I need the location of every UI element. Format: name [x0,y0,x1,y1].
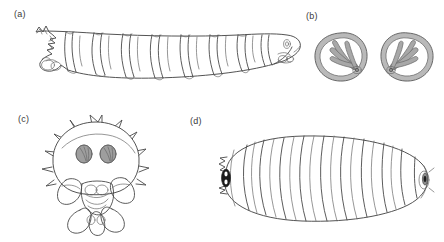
spiracular-plate-right [381,33,433,81]
figure-container: (a) [0,0,444,242]
spiracular-plate-left [315,33,367,81]
panel-label-b: (b) [306,11,318,21]
panel-d-puparium-dorsal-view [196,128,440,232]
panel-label-d: (d) [190,116,202,126]
panel-b-spiracular-plates [312,30,438,92]
panel-label-c: (c) [18,114,29,124]
panel-a-larva-lateral-view [6,14,316,86]
panel-c-posterior-end-view [36,114,156,238]
